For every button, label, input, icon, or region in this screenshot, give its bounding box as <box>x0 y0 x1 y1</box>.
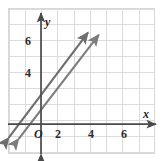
coordinate-graph-figure: 6 4 O 2 4 6 y x <box>0 0 165 161</box>
series-line-a <box>9 33 88 138</box>
origin-label: O <box>34 128 43 140</box>
x-axis-label: x <box>143 108 149 120</box>
x-tick-label-2: 2 <box>55 128 61 140</box>
series-line-b <box>19 35 99 139</box>
y-tick-label-6: 6 <box>25 35 31 47</box>
y-tick-label-4: 4 <box>25 67 31 79</box>
x-tick-label-4: 4 <box>88 128 94 140</box>
y-axis-label: y <box>45 16 50 28</box>
axes-and-series <box>0 0 165 161</box>
x-tick-label-6: 6 <box>121 128 127 140</box>
